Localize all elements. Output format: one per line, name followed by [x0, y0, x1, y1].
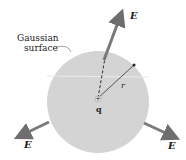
field-label-top: E — [130, 11, 138, 21]
label-gaussian: Gaussian — [17, 33, 59, 43]
charge-sign: + — [95, 94, 101, 104]
gauss-diagram — [0, 0, 186, 160]
field-label-right: E — [168, 141, 176, 151]
field-arrow-right — [144, 123, 172, 136]
field-label-left: E — [24, 140, 32, 150]
field-arrow-left — [22, 122, 49, 135]
charge-label: q — [96, 104, 102, 114]
radius-label: r — [121, 81, 125, 91]
label-surface: surface — [24, 43, 58, 53]
